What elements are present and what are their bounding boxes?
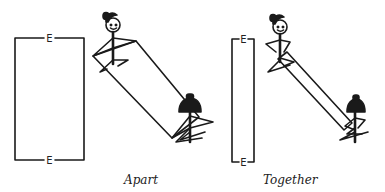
boy-figure-apart [172, 94, 213, 142]
field-label-top-apart: E [46, 33, 52, 44]
diagram-figure: E E [0, 0, 385, 192]
field-label-top-together: E [240, 34, 246, 45]
caption-apart: Apart [124, 173, 158, 187]
seesaw-diagram: E E [0, 0, 385, 192]
field-label-bottom-together: E [240, 157, 246, 168]
panel-apart: E E [15, 13, 213, 167]
caption-together: Together [263, 173, 317, 187]
field-label-bottom-apart: E [46, 155, 52, 166]
field-bracket-together: E E [232, 34, 254, 168]
boy-figure-together [340, 95, 368, 142]
field-rectangle-apart: E E [15, 33, 84, 166]
girl-figure-together [266, 15, 294, 73]
panel-together: E E [232, 15, 368, 169]
